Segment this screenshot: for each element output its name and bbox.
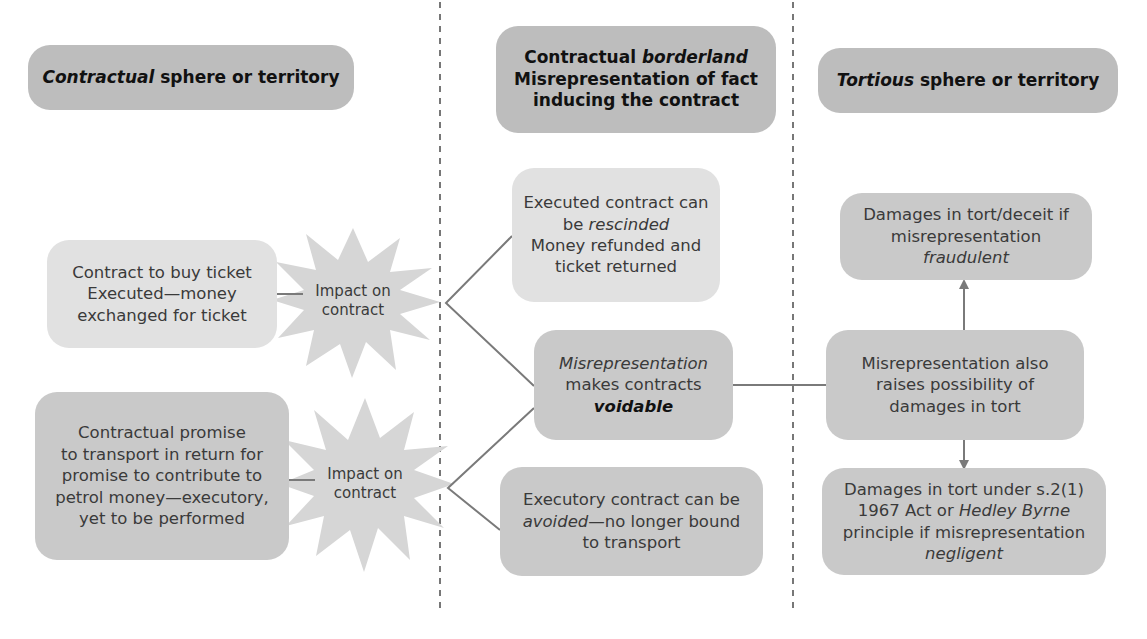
voidable-box: Misrepresentation makes contracts voidab… bbox=[534, 330, 733, 440]
impact-on-contract-label-1: Impact on contract bbox=[303, 282, 403, 320]
executory-contract-box: Contractual promise to transport in retu… bbox=[35, 392, 289, 560]
avoided-box: Executory contract can be avoided—no lon… bbox=[500, 467, 763, 576]
rescinded-box: Executed contract can be rescinded Money… bbox=[512, 168, 720, 302]
negligent-damages-box: Damages in tort under s.2(1) 1967 Act or… bbox=[822, 468, 1106, 575]
header-tortious-sphere: Tortious sphere or territory bbox=[818, 48, 1118, 113]
header-contractual-sphere: Contractual sphere or territory bbox=[28, 45, 354, 110]
header-contractual-borderland: Contractual borderland Misrepresentation… bbox=[496, 26, 776, 133]
fraudulent-damages-box: Damages in tort/deceit if misrepresentat… bbox=[840, 193, 1092, 280]
impact-on-contract-label-2: Impact on contract bbox=[315, 465, 415, 503]
tort-possibility-box: Misrepresentation also raises possibilit… bbox=[826, 330, 1084, 440]
executed-contract-box: Contract to buy ticket Executed—money ex… bbox=[47, 240, 277, 348]
